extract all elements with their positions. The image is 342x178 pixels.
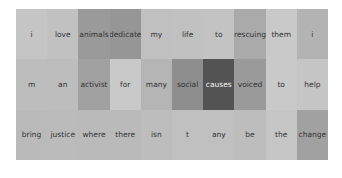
heatmap-cell: be [234,110,265,160]
heatmap-cell: to [266,59,297,109]
heatmap-cell: to [203,9,234,59]
heatmap-cell: bring [16,110,47,160]
heatmap-cell: love [47,9,78,59]
heatmap-cell: isn [141,110,172,160]
heatmap-cell: i [16,9,47,59]
heatmap-cell: t [172,110,203,160]
heatmap-cell: social [172,59,203,109]
heatmap-cell: many [141,59,172,109]
heatmap-cell: rescuing [234,9,265,59]
heatmap-cell: the [266,110,297,160]
heatmap-cell: my [141,9,172,59]
heatmap-cell: animals [78,9,109,59]
heatmap-cell: activist [78,59,109,109]
heatmap-cell: for [110,59,141,109]
heatmap-cell: there [110,110,141,160]
heatmap-cell: an [47,59,78,109]
heatmap-cell: m [16,59,47,109]
heatmap-cell: any [203,110,234,160]
heatmap-cell: help [297,59,328,109]
heatmap-cell: where [78,110,109,160]
heatmap-cell: justice [47,110,78,160]
heatmap-cell: i [297,9,328,59]
heatmap-cell: voiced [234,59,265,109]
heatmap-cell: life [172,9,203,59]
heatmap-cell: causes [203,59,234,109]
token-heatmap: iloveanimalsdedicatemylifetorescuingthem… [16,9,328,160]
heatmap-cell: them [266,9,297,59]
heatmap-cell: change [297,110,328,160]
heatmap-cell: dedicate [110,9,141,59]
